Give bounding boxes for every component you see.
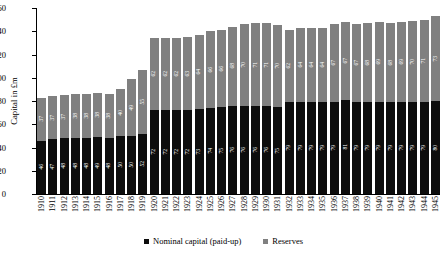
x-tick-label: 1945 — [432, 196, 440, 224]
x-tick-label: 1932 — [286, 196, 294, 224]
x-tick-label: 1924 — [196, 196, 204, 224]
bar-value-label: 37 — [39, 116, 45, 122]
legend-item[interactable]: Reserves — [263, 236, 303, 246]
bar-column[interactable]: 6879 — [386, 8, 395, 194]
bar-value-label: 79 — [320, 145, 326, 151]
bar-column[interactable]: 6674 — [206, 8, 215, 194]
legend-swatch-icon — [144, 239, 149, 244]
x-tick: 1941 — [386, 196, 395, 232]
bar-column[interactable]: 7176 — [251, 8, 260, 194]
bar-column[interactable]: 7079 — [408, 8, 417, 194]
bar-column[interactable]: 7380 — [431, 8, 440, 194]
x-tick-label: 1939 — [364, 196, 372, 224]
x-tick-label: 1935 — [319, 196, 327, 224]
bar-segment-nominal-capital: 79 — [352, 102, 361, 194]
bar-column[interactable]: 3848 — [71, 8, 80, 194]
bar-column[interactable]: 5552 — [138, 8, 147, 194]
bar-column[interactable]: 4950 — [127, 8, 136, 194]
bar-segment-reserves: 38 — [71, 94, 80, 138]
bar-segment-nominal-capital: 76 — [262, 106, 271, 194]
bar-segment-reserves: 55 — [138, 70, 147, 134]
x-tick-label: 1934 — [308, 196, 316, 224]
bar-column[interactable]: 6372 — [183, 8, 192, 194]
x-tick-label: 1914 — [83, 196, 91, 224]
bar-segment-reserves: 64 — [307, 28, 316, 102]
bar-value-label: 62 — [163, 71, 169, 77]
legend-item[interactable]: Nominal capital (paid-up) — [144, 236, 241, 246]
y-tick-label: 100 — [0, 74, 6, 83]
bar-column[interactable]: 7179 — [420, 8, 429, 194]
bar-segment-reserves: 38 — [82, 94, 91, 138]
bar-value-label: 79 — [410, 145, 416, 151]
bar-value-label: 67 — [331, 60, 337, 66]
bar-column[interactable]: 6675 — [217, 8, 226, 194]
bar-column[interactable]: 6979 — [375, 8, 384, 194]
bar-value-label: 63 — [185, 71, 191, 77]
bar-column[interactable]: 6272 — [150, 8, 159, 194]
bar-column[interactable]: 7176 — [262, 8, 271, 194]
chart-legend: Nominal capital (paid-up)Reserves — [0, 236, 447, 246]
bar-column[interactable]: 6479 — [318, 8, 327, 194]
bar-segment-reserves: 68 — [228, 27, 237, 106]
bar-value-label: 79 — [376, 145, 382, 151]
x-tick: 1934 — [307, 196, 316, 232]
bar-column[interactable]: 6781 — [341, 8, 350, 194]
bar-column[interactable]: 6876 — [228, 8, 237, 194]
x-tick-label: 1944 — [421, 196, 429, 224]
bar-column[interactable]: 6479 — [296, 8, 305, 194]
bar-value-label: 48 — [84, 163, 90, 169]
bar-segment-nominal-capital: 79 — [397, 102, 406, 194]
bar-column[interactable]: 7076 — [240, 8, 249, 194]
bar-column[interactable]: 3748 — [60, 8, 69, 194]
bar-segment-reserves: 62 — [285, 30, 294, 102]
x-tick: 1921 — [161, 196, 170, 232]
bar-value-label: 62 — [286, 63, 292, 69]
bar-segment-nominal-capital: 79 — [363, 102, 372, 194]
bar-column[interactable]: 3849 — [93, 8, 102, 194]
bar-column[interactable]: 6279 — [285, 8, 294, 194]
x-tick-label: 1941 — [387, 196, 395, 224]
bar-column[interactable]: 6979 — [397, 8, 406, 194]
bar-column[interactable]: 7075 — [273, 8, 282, 194]
bar-segment-reserves: 68 — [386, 23, 395, 102]
bar-value-label: 70 — [275, 63, 281, 69]
bar-column[interactable]: 6879 — [363, 8, 372, 194]
bar-segment-nominal-capital: 48 — [60, 138, 69, 194]
bar-column[interactable]: 6779 — [352, 8, 361, 194]
bar-value-label: 79 — [399, 145, 405, 151]
x-tick-label: 1913 — [72, 196, 80, 224]
bar-series-container: 3746374737483848384838493848405049505552… — [37, 8, 440, 194]
bar-segment-nominal-capital: 79 — [296, 102, 305, 194]
bar-value-label: 72 — [174, 149, 180, 155]
bar-column[interactable]: 6272 — [172, 8, 181, 194]
y-tick-label: 20 — [0, 167, 6, 176]
bar-column[interactable]: 3747 — [48, 8, 57, 194]
bar-value-label: 76 — [264, 147, 270, 153]
x-tick-label: 1920 — [151, 196, 159, 224]
bar-column[interactable]: 3848 — [82, 8, 91, 194]
bar-column[interactable]: 4050 — [116, 8, 125, 194]
y-tick-label: 120 — [0, 51, 6, 60]
bar-segment-reserves: 37 — [48, 96, 57, 139]
bar-value-label: 76 — [241, 147, 247, 153]
x-tick: 1940 — [375, 196, 384, 232]
x-tick: 1923 — [183, 196, 192, 232]
bar-column[interactable]: 6779 — [330, 8, 339, 194]
bar-segment-reserves: 70 — [273, 25, 282, 106]
bar-segment-nominal-capital: 76 — [228, 106, 237, 194]
x-tick-label: 1918 — [128, 196, 136, 224]
bar-segment-reserves: 66 — [206, 31, 215, 108]
bar-value-label: 71 — [264, 62, 270, 68]
bar-column[interactable]: 6272 — [161, 8, 170, 194]
bar-segment-reserves: 70 — [408, 21, 417, 102]
x-tick: 1939 — [363, 196, 372, 232]
bar-value-label: 38 — [95, 112, 101, 118]
bar-value-label: 71 — [253, 62, 259, 68]
bar-column[interactable]: 3746 — [37, 8, 46, 194]
bar-value-label: 70 — [410, 59, 416, 65]
bar-column[interactable]: 6479 — [307, 8, 316, 194]
bar-column[interactable]: 6473 — [195, 8, 204, 194]
x-tick-label: 1915 — [94, 196, 102, 224]
bar-column[interactable]: 3848 — [105, 8, 114, 194]
bar-segment-reserves: 38 — [93, 93, 102, 137]
